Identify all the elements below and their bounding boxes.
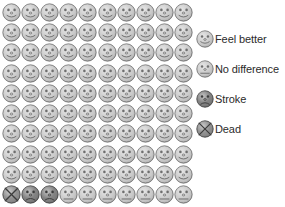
legend-item-label: No difference — [215, 63, 279, 75]
legend-item-stroke[interactable]: Stroke — [196, 84, 284, 114]
pictogram-unit-feel-better — [78, 144, 97, 164]
pictogram-unit-feel-better — [21, 103, 40, 123]
pictogram-unit-no-difference — [97, 185, 116, 205]
pictogram-unit-feel-better — [117, 22, 136, 42]
pictogram-unit-feel-better — [97, 164, 116, 184]
pictogram-unit-feel-better — [59, 164, 78, 184]
pictogram-unit-feel-better — [59, 63, 78, 83]
pictogram-unit-feel-better — [174, 63, 193, 83]
pictogram-unit-feel-better — [155, 63, 174, 83]
pictogram-unit-feel-better — [155, 43, 174, 63]
pictogram-unit-feel-better — [21, 2, 40, 22]
pictogram-unit-feel-better — [21, 124, 40, 144]
pictogram-unit-feel-better — [136, 22, 155, 42]
pictogram-unit-feel-better — [40, 164, 59, 184]
pictogram-unit-feel-better — [40, 22, 59, 42]
pictogram-unit-feel-better — [21, 164, 40, 184]
pictogram-unit-feel-better — [21, 83, 40, 103]
pictogram-unit-feel-better — [59, 2, 78, 22]
legend-item-dead[interactable]: Dead — [196, 114, 284, 144]
pictogram-unit-feel-better — [97, 43, 116, 63]
pictogram-unit-feel-better — [136, 2, 155, 22]
pictogram-unit-feel-better — [136, 83, 155, 103]
pictogram-unit-feel-better — [40, 83, 59, 103]
pictogram-unit-no-difference — [117, 185, 136, 205]
pictogram-unit-feel-better — [155, 124, 174, 144]
pictogram-unit-feel-better — [174, 124, 193, 144]
pictogram-unit-feel-better — [155, 164, 174, 184]
pictogram-unit-feel-better — [97, 63, 116, 83]
pictogram-unit-dead — [2, 185, 21, 205]
legend-item-feel-better[interactable]: Feel better — [196, 24, 284, 54]
pictogram-unit-feel-better — [136, 144, 155, 164]
legend: Feel betterNo differenceStrokeDead — [196, 24, 284, 144]
pictogram-unit-feel-better — [59, 83, 78, 103]
pictogram-unit-no-difference — [59, 185, 78, 205]
pictogram-unit-feel-better — [174, 103, 193, 123]
pictogram-unit-feel-better — [136, 103, 155, 123]
pictogram-unit-feel-better — [117, 164, 136, 184]
pictogram-unit-feel-better — [174, 144, 193, 164]
pictogram-unit-feel-better — [2, 63, 21, 83]
pictogram-unit-feel-better — [59, 144, 78, 164]
pictogram-unit-feel-better — [117, 43, 136, 63]
pictogram-unit-feel-better — [2, 144, 21, 164]
pictogram-unit-no-difference — [78, 185, 97, 205]
pictogram-unit-feel-better — [174, 43, 193, 63]
pictogram-unit-feel-better — [2, 2, 21, 22]
pictogram-grid — [2, 2, 193, 205]
pictogram-unit-feel-better — [21, 144, 40, 164]
pictogram-unit-no-difference — [155, 185, 174, 205]
pictogram-unit-feel-better — [97, 103, 116, 123]
pictogram-unit-feel-better — [78, 63, 97, 83]
dead-face-icon — [196, 120, 214, 138]
stroke-face-icon — [196, 90, 214, 108]
pictogram-unit-feel-better — [21, 63, 40, 83]
pictogram-unit-feel-better — [2, 164, 21, 184]
pictogram-unit-feel-better — [40, 144, 59, 164]
legend-item-label: Feel better — [215, 33, 266, 45]
legend-item-label: Stroke — [215, 93, 246, 105]
pictogram-unit-feel-better — [97, 22, 116, 42]
pictogram-unit-feel-better — [2, 124, 21, 144]
pictogram-unit-feel-better — [155, 144, 174, 164]
pictogram-unit-feel-better — [97, 124, 116, 144]
pictogram-unit-no-difference — [174, 185, 193, 205]
pictogram-unit-feel-better — [117, 83, 136, 103]
pictogram-unit-feel-better — [78, 124, 97, 144]
pictogram-unit-feel-better — [40, 43, 59, 63]
pictogram-unit-feel-better — [21, 43, 40, 63]
pictogram-unit-feel-better — [59, 43, 78, 63]
pictogram-unit-feel-better — [2, 43, 21, 63]
pictogram-unit-feel-better — [2, 103, 21, 123]
pictogram-unit-stroke — [40, 185, 59, 205]
pictogram-unit-feel-better — [78, 43, 97, 63]
pictogram-unit-feel-better — [155, 103, 174, 123]
pictogram-unit-feel-better — [59, 103, 78, 123]
pictogram-unit-no-difference — [136, 185, 155, 205]
pictogram-unit-feel-better — [136, 63, 155, 83]
pictogram-unit-feel-better — [117, 2, 136, 22]
pictogram-unit-feel-better — [155, 2, 174, 22]
pictogram-unit-feel-better — [136, 43, 155, 63]
pictogram-unit-feel-better — [117, 144, 136, 164]
pictogram-unit-feel-better — [155, 83, 174, 103]
pictogram-unit-feel-better — [174, 2, 193, 22]
pictogram-unit-feel-better — [40, 2, 59, 22]
pictogram-unit-feel-better — [21, 22, 40, 42]
pictogram-unit-feel-better — [97, 144, 116, 164]
pictogram-unit-feel-better — [78, 83, 97, 103]
pictogram-unit-feel-better — [78, 164, 97, 184]
pictogram-unit-feel-better — [2, 22, 21, 42]
pictogram-unit-feel-better — [78, 22, 97, 42]
pictogram-unit-feel-better — [174, 83, 193, 103]
legend-item-no-difference[interactable]: No difference — [196, 54, 284, 84]
pictogram-figure: Feel betterNo differenceStrokeDead — [0, 0, 285, 207]
pictogram-unit-feel-better — [174, 22, 193, 42]
pictogram-unit-stroke — [21, 185, 40, 205]
pictogram-unit-feel-better — [40, 124, 59, 144]
pictogram-unit-feel-better — [97, 83, 116, 103]
pictogram-unit-feel-better — [59, 22, 78, 42]
pictogram-unit-feel-better — [40, 63, 59, 83]
pictogram-unit-feel-better — [117, 124, 136, 144]
